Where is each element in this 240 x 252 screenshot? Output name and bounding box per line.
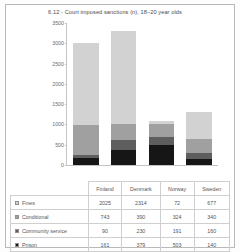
table-cell: 340 — [194, 210, 229, 224]
column-header-denmark: Denmark — [122, 182, 161, 196]
chart-plot-area: 3500300025002000150010005000 — [10, 18, 230, 178]
table-cell: 140 — [194, 238, 229, 252]
bar-segment-fines — [111, 31, 137, 125]
bar-denmark — [111, 23, 137, 165]
legend-swatch-icon — [15, 201, 19, 205]
bar-segment-conditional — [149, 124, 175, 137]
bar-norway — [149, 23, 175, 165]
bar-sweden — [186, 23, 212, 165]
legend-row-community-service: Community service — [11, 224, 89, 238]
legend-label: Conditional — [22, 214, 49, 220]
table-corner-cell — [11, 182, 89, 196]
y-axis-tick-label: 2500 — [52, 61, 64, 67]
table-body: Fines2025231472677Conditional74339032434… — [11, 196, 230, 252]
bar-segment-prison — [111, 150, 137, 165]
legend-swatch-icon — [15, 215, 19, 219]
legend-label: Prison — [22, 242, 37, 248]
table-cell: 390 — [122, 210, 161, 224]
table-cell: 90 — [89, 224, 122, 238]
table-cell: 2314 — [122, 196, 161, 210]
bar-segment-community-service — [149, 137, 175, 145]
table-row: Prison161379503140 — [11, 238, 230, 252]
legend-row-fines: Fines — [11, 196, 89, 210]
bar-segment-community-service — [111, 140, 137, 149]
legend-swatch-icon — [15, 243, 19, 247]
y-axis-tick-label: 1500 — [52, 101, 64, 107]
table-cell: 230 — [122, 224, 161, 238]
legend-row-conditional: Conditional — [11, 210, 89, 224]
bar-segment-prison — [73, 158, 99, 165]
table-row: Conditional743390324340 — [11, 210, 230, 224]
legend-row-prison: Prison — [11, 238, 89, 252]
table-header-row: FinlandDenmarkNorwaySweden — [11, 182, 230, 196]
table-cell: 743 — [89, 210, 122, 224]
bar-segment-fines — [73, 43, 99, 125]
table-cell: 2025 — [89, 196, 122, 210]
table-cell: 324 — [160, 210, 194, 224]
y-axis-tick-label: 500 — [55, 142, 64, 148]
y-axis-tick-label: 3500 — [52, 20, 64, 26]
bar-segment-prison — [149, 145, 175, 165]
column-header-finland: Finland — [89, 182, 122, 196]
y-axis-tick-label: 3000 — [52, 40, 64, 46]
data-table: FinlandDenmarkNorwaySweden Fines20252314… — [10, 181, 230, 252]
table-row: Fines2025231472677 — [11, 196, 230, 210]
y-axis-tick-label: 2000 — [52, 81, 64, 87]
bar-segment-conditional — [186, 139, 212, 153]
plot-axes: 3500300025002000150010005000 — [66, 23, 218, 166]
y-axis-tick-mark — [65, 165, 67, 166]
table-cell: 72 — [160, 196, 194, 210]
document-page: 6.12 - Court imposed sanctions (n), 18–2… — [0, 0, 240, 252]
legend-label: Community service — [22, 228, 67, 234]
bar-group — [67, 23, 218, 165]
bar-segment-fines — [186, 112, 212, 139]
table-cell: 161 — [89, 238, 122, 252]
column-header-norway: Norway — [160, 182, 194, 196]
table-cell: 191 — [160, 224, 194, 238]
bar-segment-prison — [186, 159, 212, 165]
column-header-sweden: Sweden — [194, 182, 229, 196]
chart-title: 6.12 - Court imposed sanctions (n), 18–2… — [10, 9, 220, 15]
table-head: FinlandDenmarkNorwaySweden — [11, 182, 230, 196]
y-axis-tick-label: 1000 — [52, 121, 64, 127]
bar-segment-conditional — [73, 125, 99, 155]
table-cell: 160 — [194, 224, 229, 238]
table-cell: 379 — [122, 238, 161, 252]
legend-swatch-icon — [15, 229, 19, 233]
y-axis-tick-label: 0 — [61, 162, 64, 168]
table-cell: 503 — [160, 238, 194, 252]
bar-finland — [73, 23, 99, 165]
legend-label: Fines — [22, 200, 35, 206]
bar-segment-conditional — [111, 124, 137, 140]
table-cell: 677 — [194, 196, 229, 210]
table-row: Community service90230191160 — [11, 224, 230, 238]
